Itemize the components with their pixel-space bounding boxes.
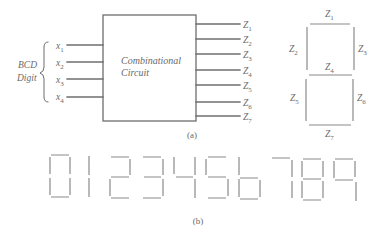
output-z2: Z2 [196, 35, 252, 48]
block-label-line1: Combinational [121, 55, 181, 66]
bcd-label-line1: BCD [18, 60, 37, 70]
digit-4 [174, 157, 195, 198]
digit-8 [302, 159, 323, 200]
digit-3 [143, 157, 163, 198]
input-x1: x1 [55, 41, 103, 54]
bcd-digit-label: BCD Digit [16, 60, 37, 83]
svg-text:x2: x2 [55, 58, 64, 71]
input-x2: x2 [55, 58, 103, 71]
label-z6: Z6 [357, 93, 366, 106]
bcd-label-line2: Digit [16, 73, 37, 83]
digit-2 [110, 157, 130, 198]
label-z1: Z1 [325, 9, 334, 22]
input-x4: x4 [55, 92, 103, 105]
caption-a: (a) [187, 130, 197, 140]
svg-text:Z5: Z5 [243, 81, 252, 94]
svg-text:Z4: Z4 [243, 66, 252, 79]
digit-5 [206, 157, 228, 198]
label-z3: Z3 [358, 44, 367, 57]
digit-6 [239, 157, 260, 199]
digit-row [50, 155, 356, 201]
label-z2: Z2 [289, 44, 298, 57]
svg-text:x3: x3 [55, 75, 64, 88]
label-z7: Z7 [325, 129, 334, 142]
svg-text:x4: x4 [55, 92, 64, 105]
output-z4: Z4 [196, 66, 252, 79]
caption-b: (b) [193, 216, 204, 226]
digit-9 [334, 159, 356, 201]
label-z5: Z5 [290, 93, 299, 106]
label-z4: Z4 [325, 62, 334, 75]
combinational-circuit-block [103, 15, 196, 121]
output-z5: Z5 [196, 81, 252, 94]
svg-text:x1: x1 [55, 41, 64, 54]
svg-text:Z6: Z6 [243, 98, 252, 111]
digit-0 [50, 155, 70, 197]
input-x3: x3 [55, 75, 103, 88]
output-z6: Z6 [196, 98, 252, 111]
block-label-line2: Circuit [121, 67, 149, 78]
svg-text:Z7: Z7 [243, 112, 252, 125]
output-z1: Z1 [196, 20, 252, 33]
svg-text:Z3: Z3 [243, 50, 252, 63]
seven-segment-layout: Z1 Z2 Z3 Z4 Z5 Z6 Z7 [289, 9, 367, 142]
input-brace [40, 42, 48, 102]
svg-text:Z2: Z2 [243, 35, 252, 48]
svg-text:Z1: Z1 [243, 20, 252, 33]
output-z3: Z3 [196, 50, 252, 63]
digit-7 [272, 158, 292, 198]
diagram-canvas: BCD Digit x1 x2 x3 x4 Combinational Circ… [0, 0, 384, 237]
output-z7: Z7 [196, 112, 252, 125]
